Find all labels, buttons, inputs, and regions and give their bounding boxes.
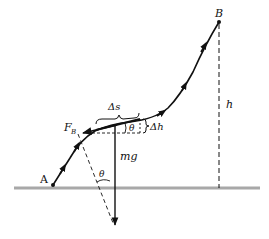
point-b-dot <box>217 20 221 24</box>
label-theta-top: θ <box>129 123 135 133</box>
physics-diagram: A B h Δs Δh θ θ mg F B <box>0 0 269 239</box>
label-theta-bottom: θ <box>99 169 105 179</box>
diagram-canvas: A B h Δs Δh θ θ mg F B <box>0 0 269 239</box>
label-a: A <box>39 173 49 186</box>
delta-h-brace <box>143 119 149 133</box>
label-mg: mg <box>120 150 137 163</box>
angle-arc-top <box>125 123 126 133</box>
path-arrow-2 <box>74 145 78 152</box>
angle-arc-bottom <box>97 180 110 182</box>
component-dashed-line <box>78 134 113 223</box>
path-arrow-4 <box>182 85 185 91</box>
normal-force-arrow <box>83 125 117 133</box>
label-h: h <box>226 98 233 111</box>
label-delta-s: Δs <box>107 101 120 112</box>
point-a-dot <box>51 183 55 187</box>
label-normal-force-sub: B <box>70 128 76 136</box>
path-arrow-1 <box>60 167 64 174</box>
label-delta-h: Δh <box>149 121 164 132</box>
label-b: B <box>214 7 223 20</box>
